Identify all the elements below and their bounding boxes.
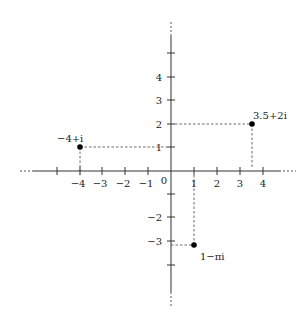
point-1-pi-i [191, 242, 197, 248]
x-label-3: 3 [237, 178, 243, 189]
y-axis [167, 22, 175, 306]
x-axis [20, 167, 296, 175]
y-label-2: 2 [156, 119, 162, 130]
point-neg4+i [77, 144, 83, 150]
x-label-neg3: −3 [93, 178, 108, 189]
y-label-4: 4 [156, 72, 162, 83]
y-label-neg2: −2 [147, 212, 162, 223]
complex-plane-diagram: −4 −3 −2 −1 0 1 2 3 4 4 3 2 1 −2 −3 3.5+ [0, 0, 308, 324]
y-label-3: 3 [156, 95, 162, 106]
y-tick-labels: 4 3 2 1 −2 −3 [147, 72, 162, 247]
y-label-1: 1 [156, 142, 162, 153]
point-label-3.5+2i: 3.5+2i [253, 110, 287, 121]
y-label-neg3: −3 [147, 236, 162, 247]
origin-label: 0 [161, 175, 167, 186]
point-labels: 3.5+2i −4+i 1−πi [57, 110, 287, 262]
x-label-2: 2 [214, 178, 220, 189]
point-label-neg4+i: −4+i [57, 133, 83, 144]
point-label-1-pi-i: 1−πi [200, 251, 225, 262]
x-label-4: 4 [260, 178, 266, 189]
x-tick-labels: −4 −3 −2 −1 0 1 2 3 4 [71, 175, 267, 189]
point-3.5+2i [249, 121, 255, 127]
x-label-neg2: −2 [116, 178, 131, 189]
x-label-neg4: −4 [71, 178, 86, 189]
x-label-neg1: −1 [139, 178, 154, 189]
